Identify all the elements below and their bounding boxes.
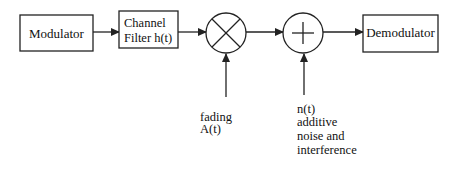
modulator-block: Modulator	[20, 15, 93, 51]
noise-label-line1: n(t)	[297, 102, 315, 116]
channel-filter-block: Channel Filter h(t)	[119, 11, 178, 48]
noise-label: n(t) additive noise and interference	[297, 102, 357, 157]
channel-filter-label-line1: Channel	[124, 16, 166, 30]
fading-label: fading A(t)	[200, 110, 233, 136]
noise-label-line2: additive	[297, 115, 338, 129]
demodulator-block: Demodulator	[363, 15, 438, 52]
multiplier-node	[206, 13, 246, 53]
demodulator-label: Demodulator	[366, 25, 435, 40]
channel-filter-label-line2: Filter h(t)	[124, 31, 172, 45]
noise-label-line4: interference	[297, 143, 357, 157]
noise-label-line3: noise and	[297, 129, 345, 143]
block-diagram: Modulator Channel Filter h(t) Demodulato…	[0, 0, 463, 175]
fading-label-line2: A(t)	[200, 122, 221, 136]
modulator-label: Modulator	[29, 26, 85, 41]
adder-node	[283, 13, 323, 53]
